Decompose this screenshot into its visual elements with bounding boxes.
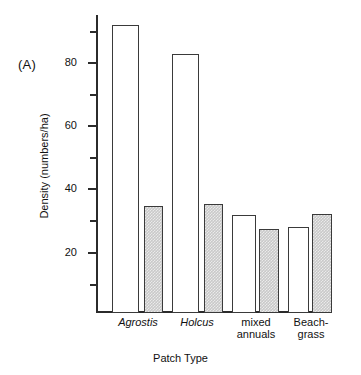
y-tick-label-60: 60 xyxy=(65,119,77,131)
x-category-line: annuals xyxy=(237,329,276,341)
y-tick-label-80: 80 xyxy=(65,56,77,68)
y-tick-50 xyxy=(90,157,97,159)
x-category-line: mixed xyxy=(237,317,276,329)
y-tick-90 xyxy=(90,31,97,33)
x-category-line: Beach- xyxy=(294,317,329,329)
figure-panel-a: (A) Density (numbers/ha) 80 60 40 20 xyxy=(0,0,361,375)
x-category-line: Agrostis xyxy=(118,317,158,329)
bar-agrostis-open xyxy=(112,25,139,313)
y-tick-30 xyxy=(90,220,97,222)
panel-letter: (A) xyxy=(18,57,36,72)
y-tick-40: 40 xyxy=(88,188,97,190)
bar-holcus-open xyxy=(172,54,199,313)
x-category-line: grass xyxy=(294,329,329,341)
y-axis-label: Density (numbers/ha) xyxy=(38,76,50,256)
bar-mixed-annuals-shaded xyxy=(259,229,279,313)
x-category-line: Holcus xyxy=(180,317,214,329)
y-tick-20: 20 xyxy=(88,252,97,254)
y-tick-80: 80 xyxy=(88,62,97,64)
bar-agrostis-shaded xyxy=(144,206,163,313)
x-category-label-mixed-annuals: mixed annuals xyxy=(237,317,276,340)
y-tick-label-20: 20 xyxy=(65,246,77,258)
x-category-label-holcus: Holcus xyxy=(180,317,214,329)
x-axis-label: Patch Type xyxy=(0,352,361,364)
x-category-label-beachgrass: Beach- grass xyxy=(294,317,329,340)
y-tick-label-40: 40 xyxy=(65,182,77,194)
plot-area: 80 60 40 20 Agrostis Hol xyxy=(96,15,321,315)
y-axis-line xyxy=(96,15,98,312)
y-tick-10 xyxy=(90,284,97,286)
bar-holcus-shaded xyxy=(204,204,223,313)
bar-mixed-annuals-open xyxy=(232,215,256,313)
y-tick-60: 60 xyxy=(88,125,97,127)
bar-beachgrass-shaded xyxy=(312,214,332,313)
bar-beachgrass-open xyxy=(288,227,309,313)
y-tick-70 xyxy=(90,94,97,96)
x-category-label-agrostis: Agrostis xyxy=(118,317,158,329)
